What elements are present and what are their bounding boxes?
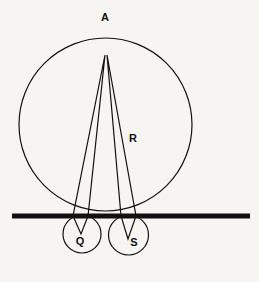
label-r: R <box>129 132 137 144</box>
label-q: Q <box>76 235 85 247</box>
diagram-canvas: A R Q S <box>0 0 259 282</box>
label-s: S <box>130 236 137 248</box>
geometry-figure: A R Q S <box>0 0 259 282</box>
label-a: A <box>101 11 109 23</box>
